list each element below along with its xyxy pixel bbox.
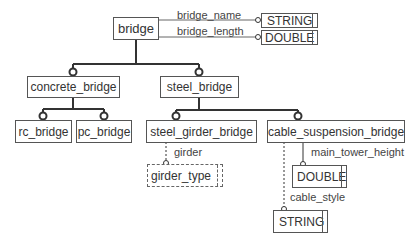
class-label: steel_girder_bridge xyxy=(150,125,253,139)
class-box-concrete-bridge: concrete_bridge xyxy=(27,76,120,98)
type-box-bar xyxy=(217,165,218,186)
type-box-bar xyxy=(341,166,342,187)
class-box-cable-suspension-bridge: cable_suspension_bridge xyxy=(267,120,405,143)
type-label: STRING xyxy=(267,14,312,28)
type-box-girder-type: girder_type xyxy=(147,164,223,187)
attr-label-main-tower-height: main_tower_height xyxy=(311,146,404,158)
attr-label-girder: girder xyxy=(174,146,202,158)
class-label: concrete_bridge xyxy=(30,80,116,94)
class-box-steel-bridge: steel_bridge xyxy=(160,76,239,98)
class-label: rc_bridge xyxy=(18,125,68,139)
class-box-pc-bridge: pc_bridge xyxy=(76,120,132,143)
type-label: DOUBLE xyxy=(297,170,346,184)
class-label: steel_bridge xyxy=(167,80,232,94)
type-box-bar xyxy=(312,31,313,44)
type-box-string-cable: STRING xyxy=(273,210,328,233)
type-label: girder_type xyxy=(151,169,211,183)
attr-label-cable-style: cable_style xyxy=(290,191,345,203)
class-box-steel-girder-bridge: steel_girder_bridge xyxy=(146,120,257,143)
class-label: pc_bridge xyxy=(78,125,131,139)
class-box-bridge: bridge xyxy=(113,17,159,40)
type-box-string-top: STRING xyxy=(261,13,318,28)
type-box-bar xyxy=(312,14,313,27)
type-label: DOUBLE xyxy=(265,31,314,45)
type-box-bar xyxy=(322,211,323,232)
type-box-double-cable: DOUBLE xyxy=(292,165,347,188)
class-label: cable_suspension_bridge xyxy=(268,125,404,139)
type-box-double-top: DOUBLE xyxy=(261,30,318,45)
class-label: bridge xyxy=(118,21,154,36)
class-box-rc-bridge: rc_bridge xyxy=(15,120,72,143)
attr-label-bridge-length: bridge_length xyxy=(177,25,244,37)
attr-label-bridge-name: bridge_name xyxy=(177,9,241,21)
type-label: STRING xyxy=(279,215,324,229)
